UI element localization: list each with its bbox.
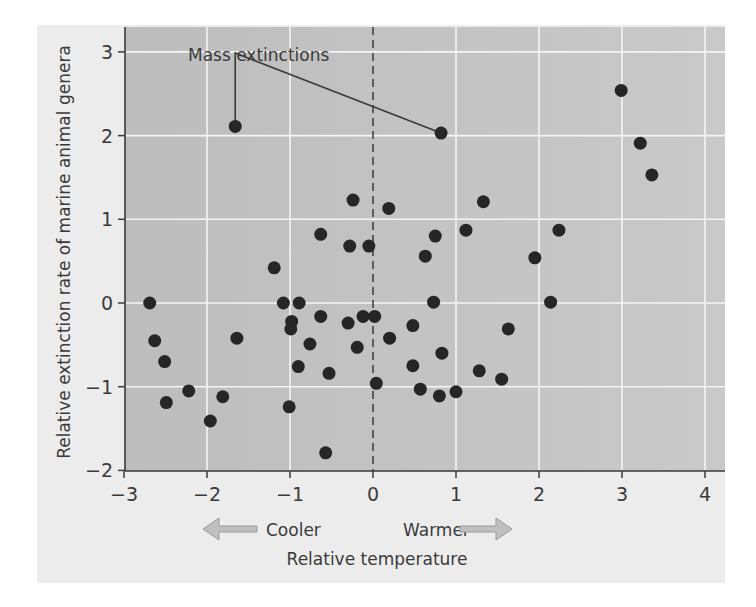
arrow-left-icon [203, 518, 257, 540]
x-tick-label: −1 [276, 483, 304, 505]
data-point [477, 195, 490, 208]
data-point [283, 400, 296, 413]
data-point [303, 338, 316, 351]
data-point [347, 194, 360, 207]
data-point [502, 322, 515, 335]
data-point [314, 228, 327, 241]
data-point [435, 127, 448, 140]
data-point [293, 297, 306, 310]
x-tick-label: 2 [533, 483, 545, 505]
data-point [314, 310, 327, 323]
annotation-label: Mass extinctions [188, 45, 329, 65]
data-point [158, 355, 171, 368]
y-tick-label: 0 [101, 292, 113, 314]
data-point [342, 317, 355, 330]
data-point [435, 347, 448, 360]
y-tick-label: −1 [85, 376, 113, 398]
x-tick-label: 3 [616, 483, 628, 505]
x-axis-ticks: −3−2−101234 [110, 471, 711, 505]
x-tick-label: 1 [450, 483, 462, 505]
y-tick-label: −2 [85, 459, 113, 481]
data-point [143, 297, 156, 310]
y-axis-ticks: −2−10123 [85, 41, 125, 482]
cooler-label: Cooler [266, 520, 321, 540]
direction-labels: Cooler Warmer [203, 518, 512, 540]
data-point [459, 224, 472, 237]
plot-area [125, 27, 725, 471]
data-point [362, 240, 375, 253]
y-tick-label: 1 [101, 208, 113, 230]
x-tick-label: 4 [699, 483, 711, 505]
data-point [160, 396, 173, 409]
y-tick-label: 3 [101, 41, 113, 63]
data-point [419, 250, 432, 263]
data-point [292, 360, 305, 373]
data-point [229, 120, 242, 133]
data-point [645, 168, 658, 181]
data-point [427, 296, 440, 309]
data-point [495, 373, 508, 386]
data-point [319, 446, 332, 459]
data-point [277, 297, 290, 310]
data-point [230, 332, 243, 345]
x-tick-label: −2 [193, 483, 221, 505]
data-point [634, 137, 647, 150]
data-point [383, 332, 396, 345]
data-point [351, 341, 364, 354]
data-point [544, 296, 557, 309]
data-point [182, 384, 195, 397]
data-point [382, 202, 395, 215]
data-point [343, 240, 356, 253]
data-point [357, 310, 370, 323]
data-point [414, 383, 427, 396]
data-point [528, 251, 541, 264]
x-axis-title: Relative temperature [287, 549, 468, 569]
data-point [552, 224, 565, 237]
data-point [285, 315, 298, 328]
data-point [433, 389, 446, 402]
data-point [406, 359, 419, 372]
x-tick-label: −3 [110, 483, 138, 505]
data-point [268, 261, 281, 274]
data-point [216, 390, 229, 403]
data-point [615, 84, 628, 97]
data-point [450, 385, 463, 398]
y-tick-label: 2 [101, 125, 113, 147]
data-point [473, 364, 486, 377]
data-point [370, 377, 383, 390]
data-point [368, 310, 381, 323]
x-tick-label: 0 [367, 483, 379, 505]
data-point [429, 230, 442, 243]
data-point [204, 415, 217, 428]
data-point [148, 334, 161, 347]
y-axis-title: Relative extinction rate of marine anima… [54, 45, 74, 459]
data-point [323, 367, 336, 380]
scatter-chart: Mass extinctions −3−2−101234 −2−10123 Re… [0, 0, 756, 607]
data-point [406, 319, 419, 332]
